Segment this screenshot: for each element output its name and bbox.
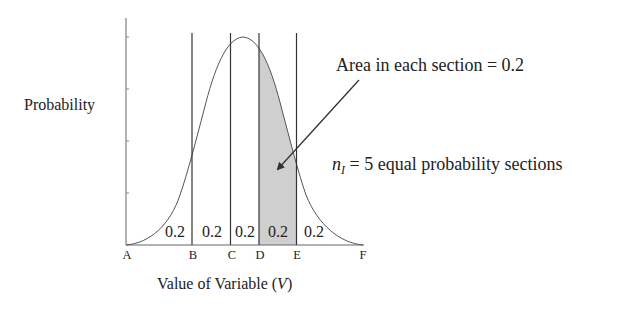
annotation-area-per-section: Area in each section = 0.2 bbox=[336, 55, 524, 75]
section-area-label: 0.2 bbox=[304, 223, 324, 240]
point-label-f: F bbox=[360, 248, 367, 262]
y-axis-label: Probability bbox=[24, 96, 95, 114]
point-label-d: D bbox=[255, 248, 264, 262]
point-label-c: C bbox=[228, 248, 236, 262]
section-area-label: 0.2 bbox=[165, 223, 185, 240]
section-area-label: 0.2 bbox=[235, 223, 255, 240]
shaded-section-d-e bbox=[126, 37, 363, 245]
x-axis-label: Value of Variable (V) bbox=[157, 275, 292, 293]
point-label-e: E bbox=[293, 248, 301, 262]
section-area-label: 0.2 bbox=[202, 223, 222, 240]
point-label-b: B bbox=[189, 248, 197, 262]
section-area-label: 0.2 bbox=[268, 223, 288, 240]
probability-sections-diagram: 0.2 0.2 0.2 0.2 0.2 A B C D E F Probabil… bbox=[0, 0, 626, 316]
annotation-section-count: nI = 5 equal probability sections bbox=[332, 154, 563, 177]
probability-curve bbox=[126, 37, 363, 245]
point-label-a: A bbox=[122, 248, 131, 262]
